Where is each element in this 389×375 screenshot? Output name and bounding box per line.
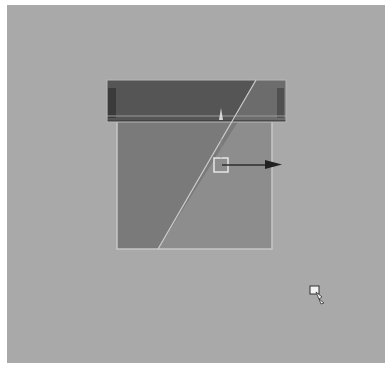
- gizmo-x-axis-arrow: [265, 160, 282, 169]
- box-lid[interactable]: [107, 80, 286, 122]
- box-body[interactable]: [117, 120, 272, 249]
- select-cursor-icon: [310, 286, 324, 304]
- 3d-viewport[interactable]: 3D viewport: [7, 5, 385, 363]
